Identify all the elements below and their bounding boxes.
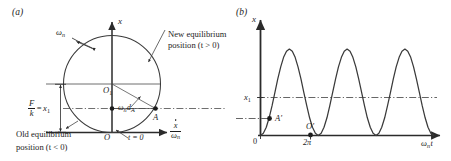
panel-a-horizontal-axis-numerator: x (170, 122, 181, 131)
panel-a-leader-old-equilibrium (66, 121, 78, 129)
panel-a-horizontal-axis-fraction: x ωn (170, 122, 181, 140)
panel-a-note-old-line1: Old equilibrium (16, 130, 71, 139)
panel-a-vector-omega: ω (118, 103, 124, 112)
panel-a-amplitude-numerator: F (28, 99, 35, 108)
panel-b-point-a-prime-label: A′ (275, 114, 282, 123)
panel-a-point-a-label: A (153, 113, 158, 122)
panel-a-xdot-overdot (175, 119, 177, 121)
panel-a-vector-label: ωndA (118, 104, 135, 112)
panel-a-amplitude-value-sub: 1 (47, 107, 50, 114)
panel-a-amplitude-value: x1 (43, 104, 50, 113)
panel-a-note-new-line1: New equilibrium (168, 30, 226, 39)
panel-a-omega-arrow-line (77, 42, 93, 49)
panel-a-center-label: O1 (103, 86, 112, 95)
panel-a-x-axis-label: x (118, 17, 122, 26)
panel-b-tag: (b) (236, 8, 247, 18)
figure-container: (a) x ωn O1 ωndA A O t = 0 F k = x1 x (0, 0, 451, 161)
panel-a-horizontal-axis-den-sub: n (177, 133, 180, 140)
panel-a-center-sub: 1 (109, 89, 112, 96)
panel-b-horizontal-axis-label: ωnt (421, 140, 433, 148)
panel-b-axis-omega-sub: n (427, 142, 430, 149)
panel-a-amplitude-equals: = (37, 104, 42, 113)
panel-b-axis-t: t (431, 139, 433, 148)
panel-b-graphics (236, 20, 440, 140)
panel-a-tag: (a) (12, 8, 23, 18)
panel-a-omega-sub: n (62, 31, 65, 38)
panel-b-response-curve (261, 49, 434, 135)
panel-a-note-old-line2: position (t < 0) (16, 143, 67, 152)
panel-a-note-new-line2: position (t > 0) (168, 41, 219, 50)
panel-a-leader-new-equilibrium (153, 30, 166, 54)
panel-a-point-a-dot (153, 106, 158, 111)
panel-a-center-dot (110, 106, 115, 111)
panel-b-point-a-prime-dot (267, 116, 272, 121)
panel-a-horizontal-axis-num-symbol: x (174, 121, 178, 130)
panel-a-origin-label: O (104, 133, 110, 142)
panel-b-x-axis-label: x (252, 15, 256, 24)
panel-b-origin-tick-label: 0 (253, 138, 257, 146)
panel-a-vector-d-sub: A (131, 106, 135, 113)
panel-a-horizontal-axis-label: x ωn (170, 122, 181, 140)
panel-a-time-zero-label: t = 0 (128, 134, 144, 142)
panel-a-vector-omega-sub: n (124, 106, 127, 113)
panel-a-amplitude-label: F k = x1 (28, 99, 50, 118)
panel-b-point-o-prime-label: O′ (306, 122, 314, 131)
panel-a-amplitude-fraction: F k (28, 99, 35, 118)
panel-a-horizontal-axis-denominator: ωn (170, 132, 181, 141)
panel-a-amplitude-denominator: k (28, 109, 35, 118)
panel-b-two-pi-tick-label: 2π (303, 139, 311, 147)
panel-b-x1-tick-label: x1 (244, 93, 251, 102)
panel-a-omega-label: ωn (56, 29, 65, 37)
panel-b-x1-sub: 1 (248, 96, 251, 103)
